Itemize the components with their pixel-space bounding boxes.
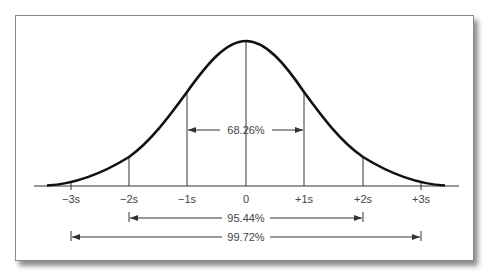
tick-label: +1s — [295, 193, 314, 205]
tick-label: +3s — [412, 193, 431, 205]
span-label-99: 99.72% — [227, 231, 265, 243]
tick-label: −2s — [120, 193, 139, 205]
normal-distribution-chart: −3s −2s −1s 0 +1s +2s +3s 68.26% 95.44% … — [0, 0, 489, 278]
tick-label: −1s — [178, 193, 197, 205]
tick-label: +2s — [354, 193, 373, 205]
tick-label: −3s — [62, 193, 81, 205]
tick-label: 0 — [243, 193, 249, 205]
span-label-95: 95.44% — [227, 212, 265, 224]
sigma-lines — [71, 41, 421, 190]
span-label-68: 68.26% — [227, 124, 265, 136]
